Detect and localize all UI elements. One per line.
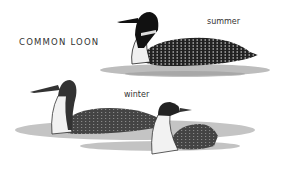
summer-loon <box>117 12 258 66</box>
summer-water <box>100 64 270 77</box>
loon-illustration <box>0 0 291 169</box>
winter-loon-right <box>152 102 218 154</box>
